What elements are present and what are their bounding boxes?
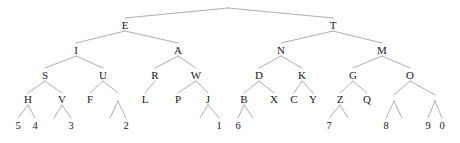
tree-node-L: L	[142, 94, 149, 105]
tree-node-B: B	[240, 94, 247, 105]
tree-edge-V-vl	[54, 105, 62, 118]
tree-edge-U-n1	[103, 81, 118, 93]
tree-node-W: W	[191, 70, 201, 81]
tree-edge-O-n2	[394, 81, 410, 95]
tree-edge-O-n3	[410, 81, 435, 95]
tree-edge-root-E	[125, 8, 228, 18]
tree-edge-T-N	[281, 31, 333, 43]
tree-edge-B-br	[244, 105, 253, 118]
tree-edge-N-D	[259, 56, 281, 68]
edges-group	[18, 8, 442, 118]
tree-edge-D-B	[244, 81, 259, 93]
tree-node-V: V	[58, 94, 66, 105]
tree-node-U: U	[99, 70, 107, 81]
tree-edge-K-Y	[302, 81, 313, 93]
tree-edge-J-d1	[208, 105, 219, 118]
tree-node-H: H	[24, 94, 32, 105]
tree-node-F: F	[87, 94, 93, 105]
tree-node-X: X	[270, 94, 278, 105]
tree-edge-Z-zr	[340, 105, 348, 118]
tree-edge-n3-d9	[428, 101, 435, 118]
tree-edge-N-K	[281, 56, 302, 68]
tree-node-d7: 7	[326, 120, 331, 131]
tree-edge-W-J	[196, 81, 208, 93]
tree-node-T: T	[330, 20, 337, 31]
tree-edge-I-S	[45, 56, 76, 68]
tree-edge-K-C	[294, 81, 302, 93]
tree-edge-V-d3	[62, 105, 71, 118]
tree-edge-J-jl	[200, 105, 208, 118]
tree-edge-S-V	[45, 81, 62, 93]
tree-edge-n1-d2	[118, 101, 126, 118]
binary-tree-figure: ETIANMSURWDKGOHVFLPJBXCYZQ5432167890	[0, 0, 460, 143]
tree-node-P: P	[175, 94, 181, 105]
tree-edge-M-G	[353, 56, 382, 68]
tree-node-S: S	[42, 70, 48, 81]
tree-node-O: O	[406, 70, 414, 81]
tree-node-d8: 8	[383, 120, 388, 131]
tree-edge-n2-nr	[394, 101, 402, 118]
tree-edge-W-P	[178, 81, 196, 93]
tree-edge-A-W	[178, 56, 196, 68]
tree-edge-G-Z	[340, 81, 353, 93]
tree-edge-I-U	[76, 56, 103, 68]
tree-edge-Z-d7	[329, 105, 340, 118]
tree-edge-n3-d0	[435, 101, 442, 118]
tree-node-I: I	[74, 45, 78, 56]
tree-edge-root-T	[228, 8, 333, 18]
tree-node-d2: 2	[123, 120, 128, 131]
tree-edge-D-X	[259, 81, 274, 93]
tree-edge-A-R	[155, 56, 178, 68]
tree-node-d0: 0	[439, 120, 444, 131]
tree-edge-M-O	[382, 56, 410, 68]
tree-node-J: J	[206, 94, 210, 105]
tree-node-d4: 4	[32, 120, 37, 131]
tree-node-Y: Y	[309, 94, 317, 105]
tree-node-d6: 6	[235, 120, 240, 131]
tree-node-A: A	[174, 45, 182, 56]
tree-edge-H-d4	[28, 105, 35, 118]
tree-edge-E-A	[125, 31, 178, 43]
tree-edge-H-d5	[18, 105, 28, 118]
tree-node-G: G	[349, 70, 357, 81]
tree-edge-G-Q	[353, 81, 367, 93]
tree-edge-n1-nl	[110, 101, 118, 118]
tree-node-K: K	[298, 70, 306, 81]
tree-edge-U-F	[90, 81, 103, 93]
tree-node-E: E	[122, 20, 129, 31]
tree-node-d1: 1	[216, 120, 221, 131]
tree-node-R: R	[151, 70, 158, 81]
tree-edge-E-I	[76, 31, 125, 43]
tree-edge-S-H	[28, 81, 45, 93]
tree-node-N: N	[277, 45, 285, 56]
tree-edge-n2-d8	[386, 101, 394, 118]
tree-node-Z: Z	[337, 94, 344, 105]
tree-node-d9: 9	[425, 120, 430, 131]
tree-edge-R-L	[145, 81, 155, 93]
tree-edge-T-M	[333, 31, 382, 43]
tree-node-C: C	[290, 94, 297, 105]
tree-node-d3: 3	[68, 120, 73, 131]
tree-node-d5: 5	[15, 120, 20, 131]
tree-node-Q: Q	[363, 94, 371, 105]
tree-edge-B-d6	[238, 105, 244, 118]
tree-node-M: M	[377, 45, 387, 56]
tree-node-D: D	[255, 70, 263, 81]
